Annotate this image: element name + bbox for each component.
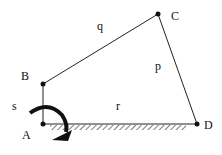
label-d: D [204,119,213,131]
joint-c [156,12,161,17]
joint-a [41,122,46,127]
rotation-arrow-head-icon [52,130,72,141]
label-q: q [97,20,103,32]
label-b: B [21,70,29,82]
label-a: A [22,129,31,141]
four-bar-linkage-diagram: A B C D s q p r [0,0,222,155]
label-c: C [171,10,179,22]
linkage-drawing [0,0,222,155]
link-p [158,14,197,124]
joint-d [195,122,200,127]
label-p: p [155,60,161,72]
label-s: s [12,100,17,112]
joint-b [41,82,46,87]
label-r: r [116,100,120,112]
ground-hatching [50,125,186,130]
